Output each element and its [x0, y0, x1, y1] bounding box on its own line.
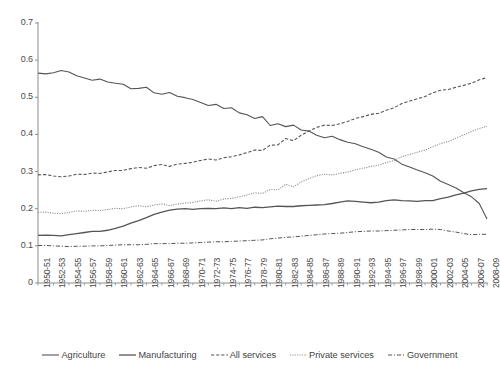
- legend-line-swatch-icon: [388, 351, 405, 359]
- chart-legend: AgricultureManufacturingAll servicesPriv…: [0, 345, 500, 365]
- x-tick-label: 1958-59: [104, 258, 114, 288]
- legend-line-swatch-icon: [290, 351, 307, 359]
- legend-line-swatch-icon: [119, 351, 136, 359]
- legend-item-label: Government: [407, 350, 458, 360]
- y-tick-label: 0.4: [11, 128, 33, 138]
- series-line-government: [38, 229, 487, 246]
- x-tick-label: 1984-85: [305, 258, 315, 288]
- legend-item-all-services[interactable]: All services: [211, 350, 276, 360]
- x-tick-label: 1956-57: [88, 258, 98, 288]
- x-tick-label: 1994-95: [383, 258, 393, 288]
- legend-line-swatch-icon: [211, 351, 228, 359]
- x-tick-label: 1960-61: [119, 258, 129, 288]
- x-tick-label: 1978-79: [259, 258, 269, 288]
- y-tick-label: 0: [11, 277, 33, 287]
- x-tick-label: 1980-81: [274, 258, 284, 288]
- legend-item-government[interactable]: Government: [388, 350, 458, 360]
- y-tick-label: 0.5: [11, 91, 33, 101]
- series-line-agriculture: [38, 71, 487, 220]
- legend-item-private-services[interactable]: Private services: [290, 350, 374, 360]
- legend-item-label: Private services: [309, 350, 374, 360]
- series-line-manufacturing: [38, 189, 487, 236]
- y-tick-label: 0.3: [11, 166, 33, 176]
- x-tick-label: 2008-09: [491, 258, 500, 288]
- legend-item-label: Agriculture: [61, 350, 105, 360]
- x-tick-label: 1992-93: [367, 258, 377, 288]
- x-tick-label: 1976-77: [243, 258, 253, 288]
- x-tick-label: 1972-73: [212, 258, 222, 288]
- legend-item-manufacturing[interactable]: Manufacturing: [119, 350, 196, 360]
- y-tick-label: 0.6: [11, 54, 33, 64]
- y-tick-label: 0.7: [11, 17, 33, 27]
- x-tick-label: 2004-05: [460, 258, 470, 288]
- x-tick-label: 1968-69: [181, 258, 191, 288]
- y-tick-label: 0.2: [11, 203, 33, 213]
- x-tick-label: 1966-67: [166, 258, 176, 288]
- x-tick-label: 2002-03: [445, 258, 455, 288]
- series-line-all-services: [38, 78, 487, 177]
- x-tick-label: 1988-89: [336, 258, 346, 288]
- line-chart-plot: [0, 0, 500, 372]
- x-tick-label: 1996-97: [398, 258, 408, 288]
- x-tick-label: 1952-53: [57, 258, 67, 288]
- x-tick-label: 1974-75: [228, 258, 238, 288]
- legend-item-agriculture[interactable]: Agriculture: [42, 350, 105, 360]
- x-tick-label: 1970-71: [197, 258, 207, 288]
- x-tick-label: 2000-01: [429, 258, 439, 288]
- x-tick-label: 1950-51: [42, 258, 52, 288]
- x-tick-label: 1990-91: [352, 258, 362, 288]
- legend-line-swatch-icon: [42, 351, 59, 359]
- x-tick-label: 1986-87: [321, 258, 331, 288]
- x-tick-label: 1998-99: [414, 258, 424, 288]
- legend-item-label: All services: [230, 350, 276, 360]
- chart-root: 00.10.20.30.40.50.60.7 1950-511952-53195…: [0, 0, 500, 372]
- x-tick-label: 1962-63: [135, 258, 145, 288]
- legend-item-label: Manufacturing: [138, 350, 196, 360]
- y-tick-label: 0.1: [11, 240, 33, 250]
- x-tick-label: 1954-55: [73, 258, 83, 288]
- x-tick-label: 1982-83: [290, 258, 300, 288]
- x-tick-label: 2006-07: [476, 258, 486, 288]
- x-tick-label: 1964-65: [150, 258, 160, 288]
